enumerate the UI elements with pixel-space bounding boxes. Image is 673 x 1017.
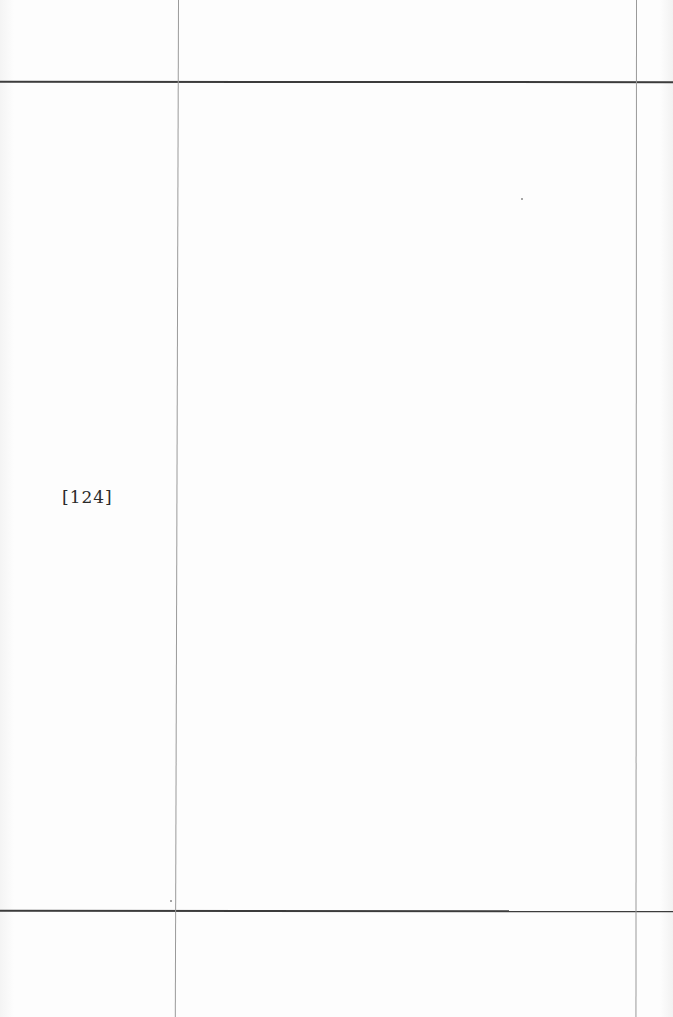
paper-speck xyxy=(170,900,172,902)
left-margin-rule xyxy=(175,0,179,1017)
paper-speck xyxy=(521,198,523,200)
ledger-page: [124] xyxy=(0,0,673,1017)
page-number: [124] xyxy=(62,487,113,507)
bottom-rule xyxy=(0,910,673,913)
top-rule xyxy=(0,81,673,83)
right-margin-rule xyxy=(635,0,637,1017)
